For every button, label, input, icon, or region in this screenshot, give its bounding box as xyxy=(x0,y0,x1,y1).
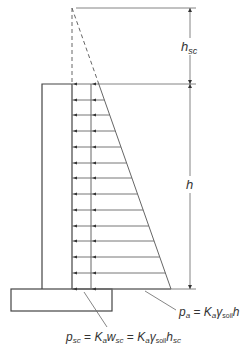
leader-psc xyxy=(84,292,107,327)
arrowhead-icon xyxy=(73,161,77,164)
arrowhead-icon xyxy=(92,113,96,116)
arrowhead-icon xyxy=(92,208,96,211)
label-psc-formula: psc = Kawsc = Kaγsoilhsc xyxy=(65,330,181,345)
arrowhead-icon xyxy=(73,145,77,148)
arrowhead-icon xyxy=(92,161,96,164)
label-h: h xyxy=(186,177,193,192)
arrowhead-icon xyxy=(73,192,77,195)
arrowhead-icon xyxy=(92,239,96,242)
label-pa-formula: pa = Kaγsoilh xyxy=(178,305,240,320)
arrowhead-icon xyxy=(92,224,96,227)
arrowhead-icon xyxy=(73,239,77,242)
arrowhead-icon xyxy=(92,176,96,179)
dashed-pressure-extension xyxy=(72,8,99,84)
arrowhead-icon xyxy=(73,113,77,116)
arrowhead-icon xyxy=(73,287,77,290)
arrowhead-icon xyxy=(73,255,77,258)
leader-pa xyxy=(145,291,176,310)
retaining-wall-diagram: hsc h pa = Kaγsoilh psc = Kawsc = Kaγsoi… xyxy=(0,0,248,352)
arrowhead-icon xyxy=(92,192,96,195)
arrowhead-icon xyxy=(73,82,77,85)
arrowhead-icon xyxy=(73,129,77,132)
dimension-arrowhead-icon xyxy=(188,84,192,88)
arrowhead-icon xyxy=(92,271,96,274)
arrowhead-icon xyxy=(92,145,96,148)
arrowhead-icon xyxy=(92,98,96,101)
arrowhead-icon xyxy=(92,287,96,290)
arrowhead-icon xyxy=(92,255,96,258)
wall-stem xyxy=(42,84,72,289)
dimension-arrowhead-icon xyxy=(188,285,192,289)
arrowhead-icon xyxy=(73,271,77,274)
footing xyxy=(11,289,112,311)
label-hsc: hsc xyxy=(181,39,198,56)
arrowhead-icon xyxy=(73,176,77,179)
arrowhead-icon xyxy=(73,208,77,211)
arrowhead-icon xyxy=(73,98,77,101)
arrowhead-icon xyxy=(92,82,96,85)
arrowhead-icon xyxy=(92,129,96,132)
dimension-arrowhead-icon xyxy=(188,80,192,84)
dimension-arrowhead-icon xyxy=(188,8,192,12)
arrowhead-icon xyxy=(73,224,77,227)
